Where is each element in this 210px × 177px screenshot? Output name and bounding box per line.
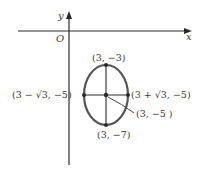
y-axis-arrow-icon <box>66 11 72 19</box>
origin-label: O <box>56 33 64 44</box>
x-axis <box>18 28 192 34</box>
ellipse-diagram: x y O (3, −3) (3, −7) (3 − √3, −5) (3 + … <box>0 0 210 177</box>
center-point <box>104 93 108 97</box>
label-covertex-left: (3 − √3, −5) <box>12 89 72 100</box>
vertex-top-point <box>104 63 108 67</box>
vertex-bottom-point <box>104 123 108 127</box>
covertex-left-point <box>82 93 86 97</box>
label-vertex-top: (3, −3) <box>92 52 126 63</box>
covertex-right-point <box>126 93 130 97</box>
label-center: (3, −5 ) <box>136 108 173 119</box>
y-axis <box>66 11 72 165</box>
label-covertex-right: (3 + √3, −5) <box>131 89 191 100</box>
x-axis-label: x <box>186 31 192 42</box>
label-vertex-bottom: (3, −7) <box>97 129 131 140</box>
y-axis-label: y <box>57 10 64 21</box>
